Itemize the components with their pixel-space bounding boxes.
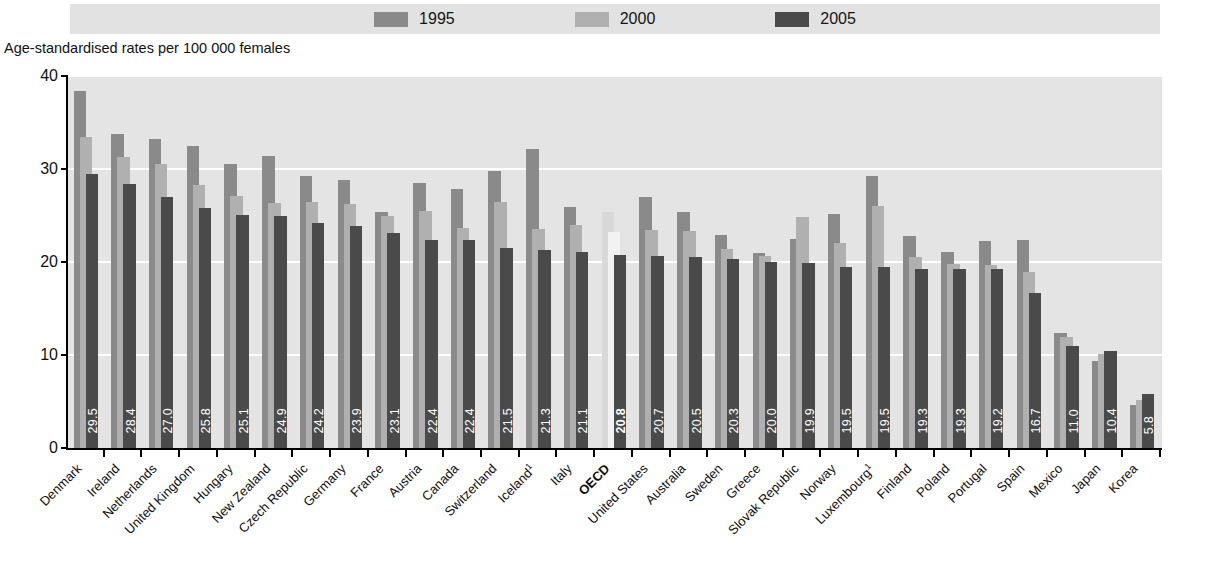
x-axis-label: Australia	[642, 461, 688, 507]
bar-2005	[86, 174, 99, 448]
x-axis-label: Korea	[1106, 461, 1141, 496]
y-tick-mark-40	[61, 75, 68, 77]
bar-value-label: 16.7	[1029, 408, 1043, 434]
bar-value-label: 11.0	[1067, 409, 1081, 434]
bar-value-label: 27.0	[161, 408, 175, 434]
x-axis-label: United Kingdom	[122, 461, 198, 537]
y-tick-label-20: 20	[18, 253, 58, 271]
bar-value-label: 22.4	[463, 408, 477, 434]
bar-group[interactable]: 10.4	[1087, 76, 1125, 448]
x-axis-label: Slovak Republic	[725, 461, 802, 538]
bar-value-label: 24.9	[275, 408, 289, 434]
legend-label-2000: 2000	[620, 11, 656, 27]
y-tick-label-40: 40	[18, 67, 58, 85]
bar-value-label: 19.3	[916, 408, 930, 434]
bar-value-label: 19.2	[991, 408, 1005, 434]
bar-value-label: 21.3	[539, 408, 553, 434]
x-axis-label: Japan	[1067, 461, 1103, 497]
y-tick-mark-20	[61, 261, 68, 263]
bar-group[interactable]: 27.0	[143, 76, 181, 448]
bar-group[interactable]: 20.8	[596, 76, 634, 448]
legend-bar: 199520002005	[70, 4, 1160, 34]
bar-group[interactable]: 22.4	[408, 76, 446, 448]
bar-group[interactable]: 21.5	[483, 76, 521, 448]
bar-value-label: 25.1	[237, 408, 251, 434]
bar-value-label: 19.3	[954, 408, 968, 434]
x-axis-labels: DenmarkIrelandNetherlandsUnited KingdomH…	[0, 455, 1223, 575]
bar-value-label: 19.5	[878, 408, 892, 434]
bar-group[interactable]: 24.9	[257, 76, 295, 448]
bar-group[interactable]: 20.7	[634, 76, 672, 448]
x-axis-label: Finland	[874, 461, 915, 502]
y-tick-label-30: 30	[18, 160, 58, 178]
bar-group[interactable]: 5.8	[1124, 76, 1162, 448]
legend-1995: 1995	[374, 11, 455, 27]
x-axis-label: Denmark	[37, 461, 85, 509]
y-tick-mark-30	[61, 168, 68, 170]
bar-value-label: 5.8	[1142, 416, 1156, 434]
bar-group[interactable]: 19.3	[898, 76, 936, 448]
bar-group[interactable]: 19.5	[860, 76, 898, 448]
bar-group[interactable]: 28.4	[106, 76, 144, 448]
x-axis-label: Mexico	[1026, 461, 1066, 501]
legend-2005: 2005	[775, 11, 856, 27]
bar-value-label: 24.2	[312, 408, 326, 434]
legend-label-2005: 2005	[820, 11, 856, 27]
legend: 199520002005	[70, 4, 1160, 34]
bar-group[interactable]: 20.0	[747, 76, 785, 448]
bar-value-label: 28.4	[124, 408, 138, 434]
bar-group[interactable]: 19.2	[973, 76, 1011, 448]
x-axis-label: Sweden	[682, 461, 726, 505]
bar-group[interactable]: 19.9	[785, 76, 823, 448]
bar-value-label: 29.5	[86, 408, 100, 434]
bar-value-label: 21.5	[501, 408, 515, 434]
y-tick-label-10: 10	[18, 346, 58, 364]
bar-value-label: 20.7	[652, 408, 666, 434]
x-axis-label: Iceland1	[493, 461, 538, 506]
bar-value-label: 25.8	[199, 408, 213, 434]
bar-value-label: 20.5	[690, 408, 704, 434]
bar-value-label: 20.3	[727, 408, 741, 434]
bar-group[interactable]: 19.5	[822, 76, 860, 448]
plot-area: 29.528.427.025.825.124.924.223.923.122.4…	[66, 76, 1162, 450]
footnote-marker: 1	[863, 461, 874, 472]
bar-group[interactable]: 23.9	[332, 76, 370, 448]
bar-group[interactable]: 11.0	[1049, 76, 1087, 448]
bar-group[interactable]: 21.3	[521, 76, 559, 448]
legend-swatch-2005	[775, 12, 809, 27]
bar-value-label: 23.1	[388, 408, 402, 434]
bar-value-label: 19.9	[803, 408, 817, 434]
x-axis-label: Italy	[548, 461, 575, 488]
y-axis-title: Age-standardised rates per 100 000 femal…	[4, 40, 290, 56]
x-axis-label: Austria	[385, 461, 424, 500]
bar-group[interactable]: 16.7	[1011, 76, 1049, 448]
y-tick-label-0: 0	[18, 439, 58, 457]
bar-value-label: 20.0	[765, 408, 779, 434]
bar-group[interactable]: 24.2	[294, 76, 332, 448]
bar-group[interactable]: 20.3	[709, 76, 747, 448]
bar-group[interactable]: 21.1	[558, 76, 596, 448]
bar-value-label: 21.1	[576, 408, 590, 434]
legend-2000: 2000	[575, 11, 656, 27]
bar-value-label: 19.5	[840, 408, 854, 434]
bar-group[interactable]: 29.5	[68, 76, 106, 448]
bar-value-label: 22.4	[426, 408, 440, 434]
bar-group[interactable]: 20.5	[672, 76, 710, 448]
bar-group[interactable]: 22.4	[445, 76, 483, 448]
bar-value-label: 10.4	[1105, 408, 1119, 434]
bar-series-container: 29.528.427.025.825.124.924.223.923.122.4…	[68, 76, 1162, 448]
y-tick-mark-10	[61, 354, 68, 356]
bar-value-label: 20.8	[614, 408, 628, 434]
x-axis-label: Portugal	[945, 461, 990, 506]
bar-group[interactable]: 25.8	[181, 76, 219, 448]
y-tick-mark-0	[61, 447, 68, 449]
bar-group[interactable]: 19.3	[936, 76, 974, 448]
legend-label-1995: 1995	[419, 11, 455, 27]
bar-group[interactable]: 23.1	[370, 76, 408, 448]
bar-group[interactable]: 25.1	[219, 76, 257, 448]
footnote-marker: 1	[523, 461, 534, 472]
bar-value-label: 23.9	[350, 408, 364, 434]
x-axis-label: France	[347, 461, 386, 500]
legend-swatch-2000	[575, 12, 609, 27]
x-axis-label: Spain	[994, 461, 1028, 495]
